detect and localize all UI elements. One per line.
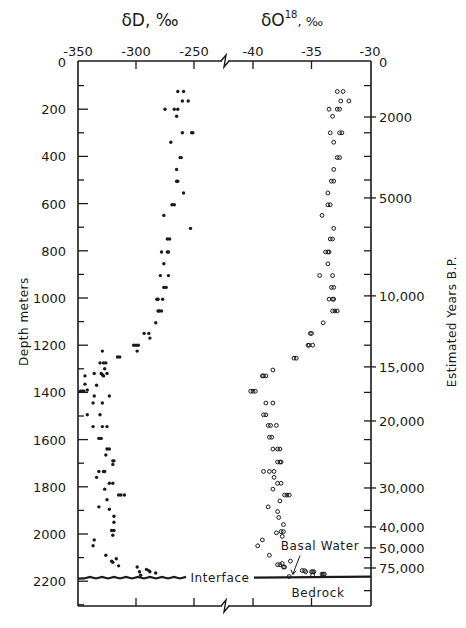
- dD-point: [137, 344, 140, 347]
- dO-point: [271, 447, 275, 451]
- age-tick-label: 2000: [379, 110, 412, 125]
- dD-point: [180, 156, 183, 159]
- dO-point: [326, 262, 330, 266]
- dO-point: [347, 99, 351, 103]
- axis-labels: -350-300-250-40-35-300200400600800100012…: [17, 9, 459, 589]
- dD-point: [105, 372, 108, 375]
- basal-water-arrow: [293, 556, 300, 574]
- dD-point: [93, 372, 96, 375]
- dO-tick-label: -35: [301, 44, 322, 59]
- age-tick-label: 10,000: [379, 289, 425, 304]
- dD-point: [93, 394, 96, 397]
- dO-point: [326, 191, 330, 195]
- dO-point: [271, 368, 275, 372]
- dD-point: [159, 274, 162, 277]
- dO-point: [327, 107, 331, 111]
- dO-point: [335, 90, 339, 94]
- annotations: InterfaceBasal WaterBedrock: [78, 539, 371, 600]
- dD-point: [86, 388, 89, 391]
- dO-point: [328, 131, 332, 135]
- dD-point: [104, 453, 107, 456]
- age-tick-label: 50,000: [379, 541, 425, 556]
- interface-line-left: [78, 577, 186, 579]
- dD-point: [175, 168, 178, 171]
- dD-point: [148, 336, 151, 339]
- dO-point: [289, 559, 293, 563]
- dD-point: [108, 447, 111, 450]
- depth-tick-label: 800: [41, 244, 66, 259]
- series-deuterium: [79, 90, 195, 577]
- dD-point: [103, 470, 106, 473]
- dD-point: [135, 565, 138, 568]
- dO-tick-label: -40: [242, 44, 263, 59]
- age-tick-label: 0: [379, 55, 387, 70]
- dO-point: [321, 321, 325, 325]
- dD-point: [175, 115, 178, 118]
- dD-point: [191, 131, 194, 134]
- dD-point: [160, 250, 163, 253]
- dD-point: [176, 90, 179, 93]
- age-tick-label: 75,000: [379, 561, 425, 576]
- dD-point: [173, 108, 176, 111]
- dO-point: [267, 553, 271, 557]
- dO-point: [278, 499, 282, 503]
- dO-point: [275, 424, 279, 428]
- dO-point: [271, 401, 275, 405]
- depth-tick-label: 2000: [33, 527, 66, 542]
- dD-point: [147, 332, 150, 335]
- dD-point: [169, 141, 172, 144]
- dO-point: [272, 475, 276, 479]
- depth-tick-label: 200: [41, 102, 66, 117]
- dD-point: [86, 413, 89, 416]
- dD-point: [105, 498, 108, 501]
- dO-point: [331, 114, 335, 118]
- age-tick-label: 20,000: [379, 414, 425, 429]
- dD-point: [123, 493, 126, 496]
- axis-break-top-icon: [221, 55, 229, 67]
- dD-point: [162, 262, 165, 265]
- dD-point: [168, 237, 171, 240]
- dD-point: [111, 561, 114, 564]
- dD-point: [95, 476, 98, 479]
- dD-point: [148, 570, 151, 573]
- interface-line-right: [254, 577, 371, 578]
- dD-point: [163, 108, 166, 111]
- dO-point: [331, 274, 335, 278]
- dD-point: [119, 493, 122, 496]
- dD-point: [108, 508, 111, 511]
- dD-point: [138, 570, 141, 573]
- dD-point: [98, 413, 101, 416]
- depth-tick-label: 1000: [33, 291, 66, 306]
- dO-point: [332, 226, 336, 230]
- dD-point: [115, 557, 118, 560]
- dD-point: [167, 250, 170, 253]
- isotope-depth-chart: -350-300-250-40-35-300200400600800100012…: [0, 0, 466, 628]
- dO-point: [320, 214, 324, 218]
- dD-point: [101, 425, 104, 428]
- dD-point: [160, 309, 163, 312]
- dO-point: [332, 167, 336, 171]
- dD-axis-title: δD, ‰: [121, 10, 178, 30]
- dD-point: [161, 297, 164, 300]
- dO-point: [318, 274, 322, 278]
- age-tick-label: 40,000: [379, 520, 425, 535]
- dO-point: [260, 538, 264, 542]
- dD-point: [181, 131, 184, 134]
- depth-tick-label: 1600: [33, 433, 66, 448]
- dD-point: [111, 482, 114, 485]
- dD-point: [117, 564, 120, 567]
- dO-point: [341, 90, 345, 94]
- dD-point: [176, 179, 179, 182]
- dD-point: [103, 487, 106, 490]
- depth-tick-label: 1800: [33, 480, 66, 495]
- dD-point: [111, 533, 114, 536]
- dD-point: [91, 544, 94, 547]
- axis-ticks: [78, 61, 376, 606]
- dD-point: [154, 571, 157, 574]
- dD-point: [118, 355, 121, 358]
- dD-point: [111, 463, 114, 466]
- dD-point: [162, 214, 165, 217]
- dO-point: [339, 99, 343, 103]
- dD-point: [102, 374, 105, 377]
- dD-point: [97, 505, 100, 508]
